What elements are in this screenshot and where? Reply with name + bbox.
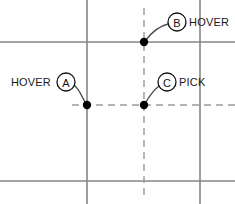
callout-a-letter: A bbox=[62, 77, 70, 89]
callout-b-letter: B bbox=[173, 17, 180, 29]
leader-line-c bbox=[146, 86, 159, 102]
grid-dashed-lines bbox=[72, 8, 235, 196]
diagram-canvas: HOVER A B HOVER C PICK bbox=[0, 0, 235, 204]
point-c bbox=[140, 101, 148, 109]
point-b bbox=[140, 38, 148, 46]
intersection-points bbox=[83, 38, 148, 109]
callout-b: B HOVER bbox=[168, 13, 229, 31]
callout-c: C PICK bbox=[158, 73, 206, 91]
callout-a-label: HOVER bbox=[11, 76, 51, 88]
callout-c-label: PICK bbox=[179, 76, 206, 88]
callout-a: HOVER A bbox=[11, 73, 75, 91]
leader-line-b bbox=[146, 24, 168, 40]
diagram-svg: HOVER A B HOVER C PICK bbox=[0, 0, 235, 204]
callout-c-letter: C bbox=[163, 77, 171, 89]
point-a bbox=[83, 101, 91, 109]
callout-leader-lines bbox=[74, 24, 168, 102]
leader-line-a bbox=[74, 85, 85, 102]
callout-b-label: HOVER bbox=[189, 16, 229, 28]
grid-solid-lines bbox=[0, 0, 235, 204]
